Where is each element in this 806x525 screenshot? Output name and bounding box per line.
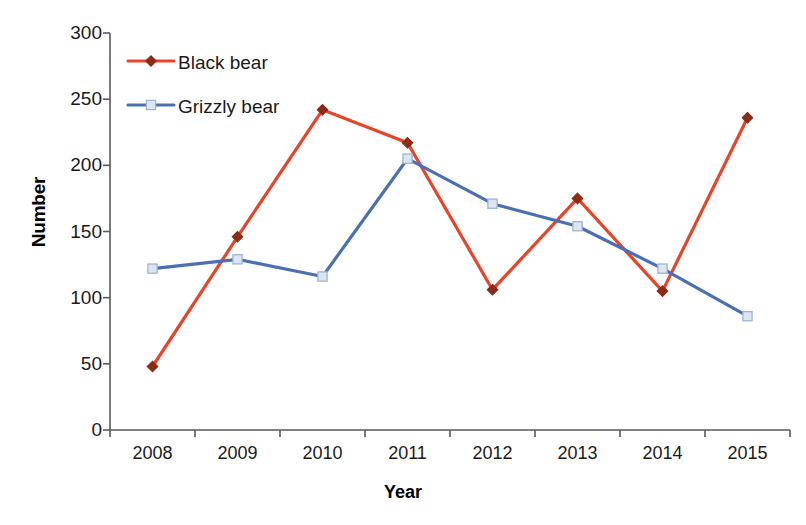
line-chart: Number Year 050100150200250300 200820092… bbox=[0, 0, 806, 525]
data-point-marker bbox=[318, 272, 327, 281]
legend-marker bbox=[146, 56, 156, 66]
data-point-marker bbox=[148, 264, 157, 273]
data-point-marker bbox=[742, 113, 752, 123]
legend-label-black-bear: Black bear bbox=[178, 52, 268, 74]
data-point-marker bbox=[573, 222, 582, 231]
plot-area bbox=[0, 0, 806, 525]
data-point-marker bbox=[488, 199, 497, 208]
data-point-marker bbox=[233, 255, 242, 264]
data-point-marker bbox=[658, 264, 667, 273]
legend-label-grizzly-bear: Grizzly bear bbox=[178, 96, 279, 118]
data-point-marker bbox=[403, 154, 412, 163]
data-point-marker bbox=[743, 312, 752, 321]
legend-marker bbox=[146, 100, 155, 109]
